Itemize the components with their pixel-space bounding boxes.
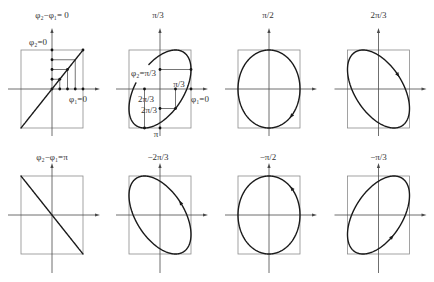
point-marker xyxy=(51,68,54,71)
phi2-start-label: φ₂=π/3 xyxy=(131,68,156,78)
point-marker xyxy=(66,88,69,91)
point-marker xyxy=(159,107,162,110)
panel-title: φ₂−φ₁=π xyxy=(36,152,68,162)
x-2pi-over-3-label: 2π/3 xyxy=(138,94,155,104)
y-pi-label: π xyxy=(154,129,159,139)
x-pi-over-3-label: π/3 xyxy=(173,79,185,89)
point-marker xyxy=(190,88,193,91)
point-marker xyxy=(51,58,54,61)
point-marker xyxy=(74,88,77,91)
point-marker xyxy=(82,88,85,91)
panel-title: −π/2 xyxy=(260,152,277,162)
point-marker xyxy=(51,78,54,81)
phi1-zero-label: φ₁=0 xyxy=(69,94,87,104)
phi2-zero-label: φ₂=0 xyxy=(29,37,47,47)
panel-title: −π/3 xyxy=(370,152,387,162)
lissajous-figure: φ₂−φ₁= 0 φ₂=0 φ₁=0 π/3 φ₂=π/3 π/3 φ xyxy=(0,0,434,282)
panel-title: π/3 xyxy=(152,10,164,20)
panel-title: φ₂−φ₁= 0 xyxy=(35,10,69,20)
background xyxy=(0,0,434,282)
panel-title: −2π/3 xyxy=(147,152,169,162)
y-2pi-over-3-label: 2π/3 xyxy=(141,105,158,115)
point-marker xyxy=(51,49,54,52)
panel-title: 2π/3 xyxy=(370,10,387,20)
point-marker xyxy=(159,127,162,130)
phi1-zero-label: φ₁=0 xyxy=(191,94,209,104)
point-marker xyxy=(159,68,162,71)
point-marker xyxy=(58,88,61,91)
panel-title: π/2 xyxy=(262,10,274,20)
point-marker xyxy=(143,88,146,91)
